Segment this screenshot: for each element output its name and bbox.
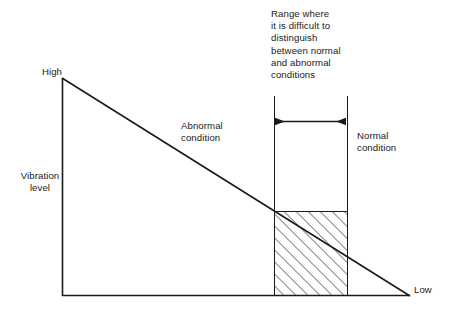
x-axis-low-label: Low [414, 284, 454, 296]
normal-condition-label: Normal condition [357, 130, 427, 154]
ambiguous-range-region [274, 211, 347, 296]
abnormal-condition-label: Abnormal condition [181, 120, 251, 144]
diagram-canvas [0, 0, 455, 315]
vibration-decay-line [62, 78, 410, 296]
vibration-level-diagram: High Vibration level Low Abnormal condit… [0, 0, 455, 315]
y-axis-high-label: High [18, 66, 62, 78]
ambiguous-range-note: Range where it is difficult to distingui… [271, 8, 367, 81]
y-axis-title: Vibration level [10, 170, 70, 194]
